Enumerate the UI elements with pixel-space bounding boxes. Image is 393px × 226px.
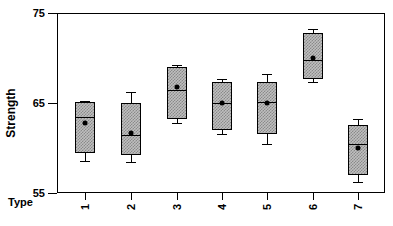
median-line: [75, 117, 95, 118]
y-tick-label: 75: [5, 7, 45, 19]
y-tick-label: 55: [5, 187, 45, 199]
x-tick-mark: [267, 193, 268, 200]
upper-whisker-cap: [126, 92, 136, 93]
x-tick-mark: [177, 193, 178, 200]
mean-marker: [311, 56, 316, 61]
x-tick-label: 4: [214, 200, 230, 214]
lower-whisker-cap: [353, 182, 363, 183]
x-tick-label: 6: [305, 200, 321, 214]
lower-whisker-cap: [80, 161, 90, 162]
upper-whisker-cap: [217, 79, 227, 80]
y-tick-mark: [48, 13, 57, 14]
mean-marker: [175, 84, 180, 89]
x-tick-label: 3: [169, 200, 185, 214]
lower-whisker-cap: [172, 123, 182, 124]
median-line: [348, 144, 368, 145]
box-iqr-rect: [257, 82, 277, 134]
box-iqr-rect: [167, 67, 187, 119]
mean-marker: [356, 146, 361, 151]
lower-whisker-cap: [262, 144, 272, 145]
box-iqr-rect: [75, 102, 95, 153]
x-tick-label: 1: [77, 200, 93, 214]
box-iqr-rect: [212, 82, 232, 130]
median-line: [121, 135, 141, 136]
y-tick-mark: [48, 103, 57, 104]
y-tick-label: 65: [5, 97, 45, 109]
x-tick-mark: [313, 193, 314, 200]
median-line: [167, 90, 187, 91]
x-tick-mark: [358, 193, 359, 200]
upper-whisker-cap: [262, 74, 272, 75]
lower-whisker-cap: [308, 82, 318, 83]
mean-marker: [220, 101, 225, 106]
mean-marker: [129, 130, 134, 135]
upper-whisker-cap: [353, 119, 363, 120]
mean-marker: [83, 120, 88, 125]
x-tick-mark: [222, 193, 223, 200]
y-tick-mark: [48, 193, 57, 194]
boxplot-figure: Strength Type 556575 1234567: [0, 0, 393, 226]
x-tick-mark: [131, 193, 132, 200]
lower-whisker-cap: [126, 162, 136, 163]
box-iqr-rect: [121, 103, 141, 155]
lower-whisker-cap: [217, 134, 227, 135]
x-tick-label: 7: [350, 200, 366, 214]
x-tick-label: 5: [259, 200, 275, 214]
x-tick-mark: [85, 193, 86, 200]
upper-whisker-cap: [308, 29, 318, 30]
x-tick-label: 2: [123, 200, 139, 214]
mean-marker: [265, 101, 270, 106]
